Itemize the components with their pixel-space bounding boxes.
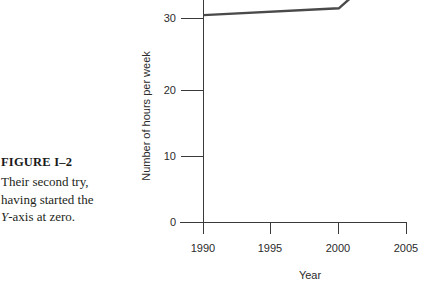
- x-tick-label-2005: 2005: [394, 242, 418, 254]
- x-axis-ticks: [204, 223, 407, 235]
- x-tick-label-1990: 1990: [191, 242, 215, 254]
- x-axis-labels: 1990 1995 2000 2005: [191, 242, 418, 254]
- y-axis-title: Number of hours per week: [140, 51, 152, 181]
- x-tick-label-1995: 1995: [258, 242, 282, 254]
- x-tick-label-2000: 2000: [326, 242, 350, 254]
- y-tick-label-0: 0: [170, 216, 176, 228]
- y-tick-label-20: 20: [164, 84, 176, 96]
- data-series-line: [204, 0, 366, 15]
- y-axis-labels: 30 20 10 0: [164, 12, 176, 228]
- chart-canvas: Number of hours per week 30 20 10 0 1990: [0, 0, 431, 289]
- y-tick-label-10: 10: [164, 150, 176, 162]
- line-chart-figure: Number of hours per week 30 20 10 0 1990: [0, 0, 431, 289]
- y-tick-label-30: 30: [164, 12, 176, 24]
- x-axis-title: Year: [299, 269, 322, 281]
- y-axis-ticks: [181, 19, 204, 223]
